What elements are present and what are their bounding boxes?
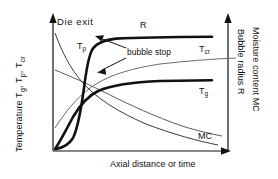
y-axis-label-left: Temperature Tg, Tp, Tcr — [14, 56, 27, 152]
y-axis-label-left-mid-1: , T — [14, 77, 24, 88]
y-axis-label-left-sub-p: p — [18, 73, 27, 77]
bubble-stop-label: bubble stop — [127, 47, 171, 57]
y-axis-label-left-sub-cr: cr — [18, 56, 27, 62]
bottom-axis — [53, 147, 231, 154]
y-axis-label-left-word: Temperature T — [14, 92, 24, 152]
curve-label-tp: Tp — [77, 41, 86, 51]
chart-figure: Die exit bubble stop R Tp Tcr Tg MC Temp… — [0, 0, 278, 179]
curve-label-mc: MC — [198, 131, 212, 141]
y-axis-label-right-outer: Moisture content MC — [251, 27, 261, 112]
y-axis-label-left-mid-2: , T — [14, 62, 24, 73]
y-axis-label-right-inner: Bubble radius R — [236, 29, 246, 95]
die-exit-label: Die exit — [57, 16, 93, 27]
curve-label-tg-base: T — [199, 86, 205, 96]
curve-label-tp-sub: p — [83, 45, 87, 52]
curve-label-tg-sub: g — [205, 90, 209, 97]
x-axis-label: Axial distance or time — [110, 159, 196, 169]
right-axis — [224, 13, 231, 151]
curve-label-tcr: Tcr — [199, 44, 210, 54]
curve-label-tcr-sub: cr — [205, 48, 210, 55]
curve-label-tp-base: T — [77, 41, 83, 51]
curve-label-tcr-base: T — [199, 44, 205, 54]
y-axis-label-left-sub-g: g — [18, 88, 27, 92]
curve-label-r: R — [140, 20, 147, 30]
curve-label-tg: Tg — [199, 86, 208, 96]
